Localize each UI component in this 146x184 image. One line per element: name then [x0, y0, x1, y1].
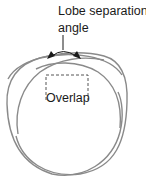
left-lobe-curve	[7, 55, 122, 176]
overlap-label: Overlap	[46, 92, 90, 105]
lobe-separation-label-line1: Lobe separation	[58, 5, 146, 18]
lobe-separation-label-line2: angle	[58, 22, 89, 35]
right-lobe-curve	[8, 53, 127, 175]
arrowhead-left-icon	[47, 51, 55, 59]
lobe-separation-diagram: Lobe separation angle Overlap	[0, 0, 146, 184]
